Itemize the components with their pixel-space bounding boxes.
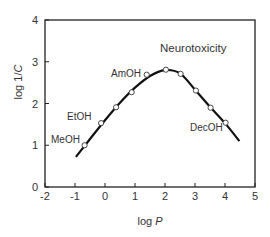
data-point-marker <box>223 120 228 125</box>
data-markers <box>82 67 228 148</box>
data-point-marker <box>144 72 149 77</box>
annotation-neurotoxicity: Neurotoxicity <box>160 42 227 54</box>
label-decoh: DecOH <box>190 122 223 133</box>
data-point-marker <box>178 71 183 76</box>
fitted-curve <box>76 70 240 157</box>
x-tick-label: 1 <box>132 190 138 202</box>
x-tick-label: 0 <box>102 190 108 202</box>
y-axis-label: log 1/C <box>12 65 24 100</box>
data-point-marker <box>82 143 87 148</box>
data-point-marker <box>129 90 134 95</box>
y-tick-label: 4 <box>32 14 38 26</box>
x-tick-label: 2 <box>162 190 168 202</box>
data-point-marker <box>114 105 119 110</box>
label-amoh: AmOH <box>111 68 141 79</box>
x-tick-label: -2 <box>40 190 50 202</box>
label-etoh: EtOH <box>67 111 91 122</box>
x-tick-label: -1 <box>70 190 80 202</box>
chart: -2-101234501234 Neurotoxicity MeOH EtOH … <box>0 0 270 237</box>
label-meoh: MeOH <box>51 134 80 145</box>
y-tick-label: 3 <box>32 56 38 68</box>
x-tick-label: 4 <box>222 190 228 202</box>
data-point-marker <box>99 121 104 126</box>
y-tick-label: 2 <box>32 98 38 110</box>
data-point-marker <box>208 105 213 110</box>
y-tick-label: 0 <box>32 181 38 193</box>
y-tick-label: 1 <box>32 139 38 151</box>
x-tick-label: 5 <box>252 190 258 202</box>
x-axis-label: log P <box>137 215 163 227</box>
data-point-marker <box>193 88 198 93</box>
data-point-marker <box>163 67 168 72</box>
x-tick-label: 3 <box>192 190 198 202</box>
